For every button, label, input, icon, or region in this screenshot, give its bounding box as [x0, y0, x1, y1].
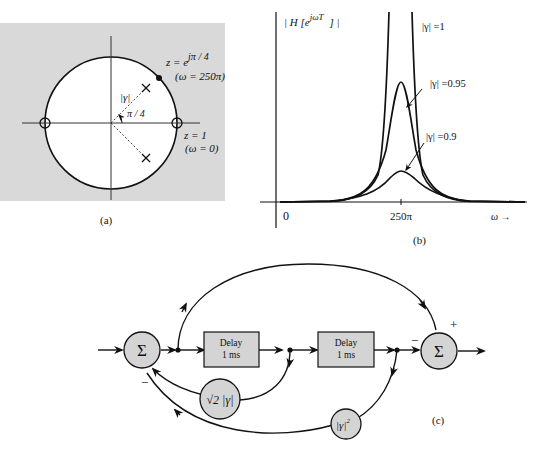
z-point-omega: (ω = 250π)	[175, 70, 225, 83]
legend-gamma-095: |γ| =0.95	[430, 78, 466, 89]
svg-text:1 ms: 1 ms	[222, 350, 241, 360]
delay-block-1: Delay 1 ms	[204, 332, 259, 367]
curve-gamma-1	[280, 12, 525, 202]
sign-plus-right: +	[450, 317, 457, 332]
delay-block-2: Delay 1 ms	[318, 332, 374, 367]
svg-text:√2 |γ|: √2 |γ|	[207, 393, 234, 407]
x-tick-center-label: 250π	[390, 210, 413, 222]
panel-a-pole-zero-plot: z = ejπ / 4 (ω = 250π) |γ| π / 4 z = 1 (…	[0, 23, 225, 201]
legend-gamma-09: |γ| =0.9	[426, 131, 457, 142]
junction-node-1	[175, 347, 180, 352]
feedback-path-2b-arrow	[175, 410, 180, 415]
angle-label: π / 4	[127, 108, 145, 119]
curve-gamma-095	[280, 82, 525, 202]
z1-label: z = 1	[183, 129, 207, 141]
x-axis-label: ω →	[491, 211, 511, 222]
feedback-path-2-arrow	[392, 368, 394, 375]
svg-text:1 ms: 1 ms	[337, 350, 356, 360]
panel-b-frequency-response: | H [ejωT] | 0 250π ω → |γ| =1 |γ| =0.95…	[260, 12, 527, 228]
gain-block-sqrt2-gamma: √2 |γ|	[200, 379, 240, 419]
summing-junction-output: Σ	[421, 333, 457, 369]
gamma-magnitude-label: |γ|	[120, 91, 130, 103]
panel-a-caption: (a)	[100, 214, 113, 227]
svg-text:Σ: Σ	[137, 341, 147, 360]
y-axis-label: | H [ejωT] |	[284, 12, 340, 28]
svg-text:Σ: Σ	[434, 342, 444, 361]
sign-minus-left: −	[141, 375, 148, 390]
sign-minus-right: −	[411, 333, 418, 348]
summing-junction-input: Σ	[124, 332, 160, 368]
feedback-path-1-arrow	[289, 360, 290, 366]
svg-text:Delay: Delay	[220, 338, 243, 348]
unit-circle-point	[156, 75, 162, 81]
curve-gamma-09	[280, 171, 525, 202]
z1-omega: (ω = 0)	[185, 142, 219, 155]
x-tick-zero: 0	[283, 209, 289, 223]
junction-node-3	[394, 347, 399, 352]
legend-gamma-1: |γ| =1	[422, 21, 445, 32]
junction-node-2	[287, 347, 292, 352]
panel-c-caption: (c)	[432, 414, 445, 427]
feedforward-arc-arrow-up	[182, 304, 186, 312]
gain-block-gamma-squared: |γ|2	[331, 409, 361, 439]
panel-b-caption: (b)	[413, 234, 426, 247]
svg-text:Delay: Delay	[335, 338, 358, 348]
